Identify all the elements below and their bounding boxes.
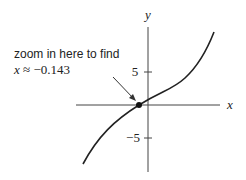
annotation-value: ≈ −0.143 <box>20 62 70 77</box>
y-tick-label-neg5: −5 <box>126 130 140 145</box>
annotation-arrow <box>113 77 134 99</box>
graph: 5 −5 y x zoom in here to find x ≈ −0.143 <box>0 0 246 180</box>
x-axis-label: x <box>226 97 233 112</box>
y-axis-label: y <box>143 7 151 22</box>
annotation-line2: x ≈ −0.143 <box>13 62 70 77</box>
highlight-point <box>136 102 142 108</box>
annotation-line1: zoom in here to find <box>14 47 119 61</box>
y-tick-label-5: 5 <box>132 64 139 79</box>
